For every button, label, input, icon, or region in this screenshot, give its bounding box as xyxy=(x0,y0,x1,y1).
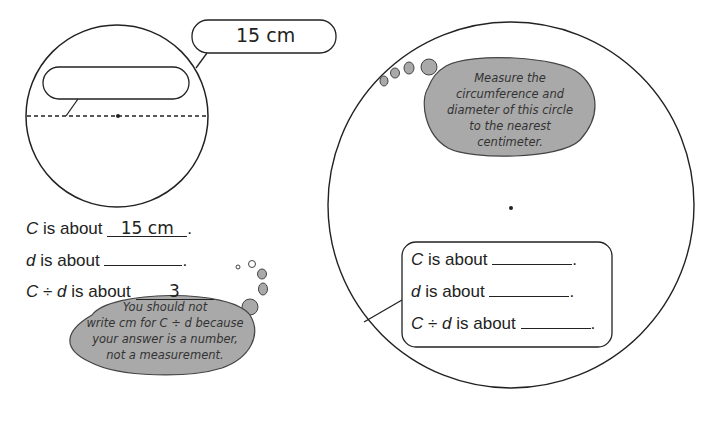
example-d-value xyxy=(104,265,182,266)
circumference-label: 15 cm xyxy=(236,24,295,46)
answer-ratio-line: C ÷ d is about . xyxy=(411,314,595,334)
instruction-bubble-text: Measure the circumference and diameter o… xyxy=(430,70,590,150)
center-point xyxy=(116,114,120,118)
example-c-value: 15 cm xyxy=(107,220,187,237)
answer-c-line: C is about . xyxy=(411,250,577,270)
answer-ratio-blank[interactable] xyxy=(521,328,591,329)
tip-bubble-text: You should not write cm for C ÷ d becaus… xyxy=(70,299,260,363)
example-c-line: C is about 15 cm. xyxy=(26,219,192,239)
exercise-center-point xyxy=(509,206,513,210)
diameter-label-box xyxy=(43,67,189,99)
answer-d-line: d is about . xyxy=(411,282,574,302)
answer-c-blank[interactable] xyxy=(492,264,572,265)
example-d-line: d is about . xyxy=(26,251,187,271)
answer-d-blank[interactable] xyxy=(489,296,569,297)
example-ratio-value: 3 xyxy=(136,283,214,300)
